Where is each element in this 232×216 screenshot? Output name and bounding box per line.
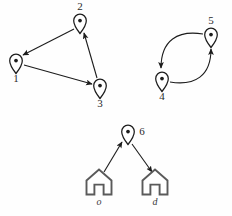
diagram-canvas: 1 2 3 4 5 6 [0,0,232,216]
node-5-label: 5 [208,14,214,26]
node-1-label: 1 [13,72,19,84]
node-2-label: 2 [77,0,83,12]
graph-diagram: 1 2 3 4 5 6 [0,0,232,216]
endpoint-origin-label: o [97,196,102,207]
node-4-label: 4 [159,90,165,102]
diagram-background [0,0,232,216]
node-3-label: 3 [97,97,103,109]
node-6-label: 6 [139,125,145,137]
